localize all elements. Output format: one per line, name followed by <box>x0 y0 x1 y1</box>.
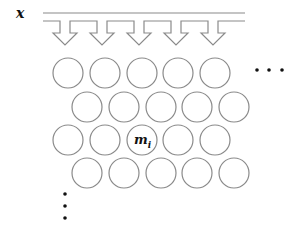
horizontal-ellipsis-icon <box>255 68 284 72</box>
neuron <box>72 92 102 122</box>
input-label: x <box>15 5 25 21</box>
neuron <box>90 125 120 155</box>
neuron <box>200 125 230 155</box>
arrow-down-icon <box>43 21 245 45</box>
neuron <box>146 158 176 188</box>
vertical-ellipsis-icon <box>63 192 67 220</box>
neuron <box>182 158 212 188</box>
neuron <box>109 92 139 122</box>
neuron <box>72 158 102 188</box>
neuron-grid <box>53 58 249 188</box>
neuron <box>163 125 193 155</box>
neuron <box>219 158 249 188</box>
neuron <box>90 58 120 88</box>
neuron <box>163 58 193 88</box>
neuron <box>219 92 249 122</box>
neuron-label-m: mi <box>134 132 152 150</box>
som-diagram: x mi <box>0 0 298 233</box>
input-arrows <box>43 21 245 45</box>
neuron <box>109 158 139 188</box>
neuron <box>53 125 83 155</box>
neuron <box>146 92 176 122</box>
neuron <box>200 58 230 88</box>
neuron <box>182 92 212 122</box>
neuron <box>53 58 83 88</box>
neuron <box>127 58 157 88</box>
